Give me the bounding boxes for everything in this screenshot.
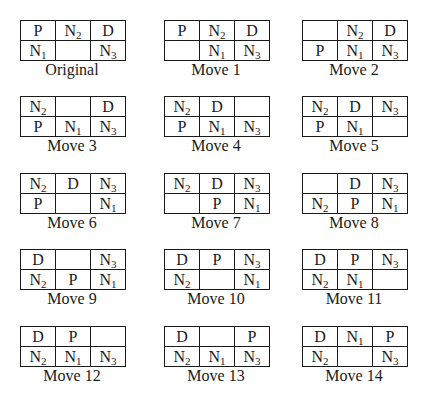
grid-cell: P: [165, 21, 200, 41]
grid-cell: N3: [235, 117, 270, 137]
grid-cell-empty: [373, 117, 408, 137]
state-grid: N2DPN1N3: [302, 20, 408, 61]
grid-cell: N1: [338, 327, 373, 347]
grid-cell: D: [21, 250, 56, 270]
grid-cell-empty: [373, 270, 408, 290]
grid-cell: D: [235, 21, 270, 41]
state-panel: DN3N2PN1Move 8: [302, 173, 412, 232]
state-label: Original: [20, 61, 124, 79]
grid-row: N2DN3: [165, 174, 270, 194]
state-label: Move 6: [20, 214, 124, 232]
state-grid: PN2DN1N3: [164, 20, 270, 61]
grid-cell: N2: [303, 97, 338, 117]
grid-cell: N3: [235, 41, 270, 61]
state-grid: PN2DN1N3: [20, 20, 126, 61]
state-label: Move 9: [20, 290, 124, 308]
state-grid: N2DPN1N3: [164, 96, 270, 137]
grid-cell: N3: [235, 347, 270, 367]
state-label: Move 10: [164, 290, 268, 308]
grid-row: N2DN3: [303, 97, 408, 117]
state-label: Move 2: [302, 61, 406, 79]
grid-row: N1N3: [165, 41, 270, 61]
grid-cell-empty: [165, 194, 200, 214]
grid-row: N2N1N3: [21, 347, 126, 367]
state-grid: N2DN3PN1: [20, 173, 126, 214]
state-grid: N2DN3PN1: [164, 173, 270, 214]
grid-cell: N2: [165, 347, 200, 367]
grid-row: PN2D: [21, 21, 126, 41]
grid-cell-empty: [56, 250, 91, 270]
grid-cell: N2: [303, 347, 338, 367]
grid-cell-empty: [56, 41, 91, 61]
state-panel: N2DN3PN1Move 5: [302, 96, 412, 155]
state-panel: DPN3N2N1Move 10: [164, 249, 274, 308]
state-panel: N2DPN1N3Move 3: [20, 96, 130, 155]
grid-cell: D: [200, 97, 235, 117]
state-panel: DN3N2PN1Move 9: [20, 249, 130, 308]
grid-cell: N1: [21, 41, 56, 61]
grid-cell: D: [338, 97, 373, 117]
grid-row: PN1N3: [21, 117, 126, 137]
state-label: Move 4: [164, 137, 268, 155]
grid-cell: N3: [235, 174, 270, 194]
grid-cell: N2: [303, 194, 338, 214]
grid-cell: D: [303, 327, 338, 347]
grid-row: PN2D: [165, 21, 270, 41]
grid-cell-empty: [200, 327, 235, 347]
grid-row: N2D: [21, 97, 126, 117]
state-label: Move 14: [302, 367, 406, 385]
grid-row: DN3: [21, 250, 126, 270]
grid-row: N2N1: [303, 270, 408, 290]
grid-cell-empty: [303, 174, 338, 194]
grid-cell-empty: [56, 194, 91, 214]
grid-cell: N1: [338, 41, 373, 61]
grid-cell: N2: [200, 21, 235, 41]
state-label: Move 7: [164, 214, 268, 232]
grid-row: DP: [165, 327, 270, 347]
grid-row: DN1P: [303, 327, 408, 347]
grid-cell: P: [56, 270, 91, 290]
grid-cell: N3: [91, 117, 126, 137]
grid-cell: N1: [91, 194, 126, 214]
grid-row: N2PN1: [21, 270, 126, 290]
state-panel: DPN2N1N3Move 12: [20, 326, 130, 385]
grid-cell: N1: [200, 117, 235, 137]
state-panel: PN2DN1N3Original: [20, 20, 130, 79]
grid-cell: N2: [21, 97, 56, 117]
grid-cell: N1: [200, 41, 235, 61]
grid-row: N2D: [165, 97, 270, 117]
grid-cell: N1: [56, 117, 91, 137]
state-grid: DN3N2PN1: [20, 249, 126, 290]
grid-cell: N3: [91, 41, 126, 61]
state-label: Move 1: [164, 61, 268, 79]
grid-cell: N2: [21, 347, 56, 367]
grid-cell: N1: [56, 347, 91, 367]
grid-row: PN1N3: [303, 41, 408, 61]
grid-cell: N3: [373, 97, 408, 117]
grid-row: PN1: [165, 194, 270, 214]
state-label: Move 11: [302, 290, 406, 308]
state-label: Move 13: [164, 367, 268, 385]
grid-cell-empty: [165, 41, 200, 61]
grid-cell: N2: [21, 174, 56, 194]
grid-cell: N2: [56, 21, 91, 41]
grid-cell: N3: [235, 250, 270, 270]
grid-cell: P: [56, 327, 91, 347]
grid-cell: D: [165, 327, 200, 347]
grid-cell: N2: [165, 97, 200, 117]
grid-row: DPN3: [303, 250, 408, 270]
state-panel: PN2DN1N3Move 1: [164, 20, 274, 79]
grid-cell: N3: [91, 250, 126, 270]
state-grid: N2DN3PN1: [302, 96, 408, 137]
grid-row: DPN3: [165, 250, 270, 270]
grid-row: PN1: [21, 194, 126, 214]
grid-cell: N3: [373, 41, 408, 61]
grid-cell: N2: [165, 174, 200, 194]
state-grid: DN3N2PN1: [302, 173, 408, 214]
grid-cell: P: [21, 117, 56, 137]
grid-cell: N3: [91, 174, 126, 194]
grid-row: N2DN3: [21, 174, 126, 194]
grid-row: N2N1N3: [165, 347, 270, 367]
grid-cell: N1: [200, 347, 235, 367]
grid-cell-empty: [303, 21, 338, 41]
